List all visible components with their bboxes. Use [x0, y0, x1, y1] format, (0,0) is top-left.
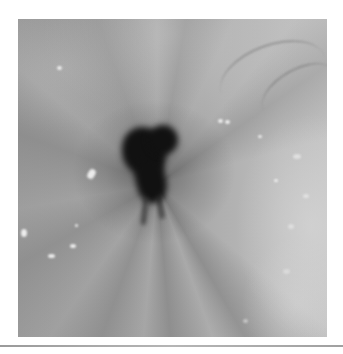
- specular-highlight: [243, 319, 248, 323]
- specular-highlight: [293, 154, 301, 159]
- divider-line: [0, 345, 343, 347]
- dark-lumen: [148, 125, 178, 155]
- specular-highlight: [57, 66, 62, 70]
- specular-highlight: [274, 179, 278, 182]
- specular-highlight: [303, 194, 309, 198]
- specular-highlight: [70, 244, 76, 248]
- specular-highlight: [218, 119, 223, 123]
- specular-highlight: [48, 254, 55, 258]
- specular-highlight: [225, 120, 230, 124]
- specular-highlight: [288, 224, 294, 229]
- specular-highlight: [258, 135, 262, 138]
- specular-highlight: [21, 229, 27, 237]
- specular-highlight: [75, 224, 78, 227]
- specular-highlight: [283, 269, 290, 274]
- endoscopy-image: [18, 19, 327, 337]
